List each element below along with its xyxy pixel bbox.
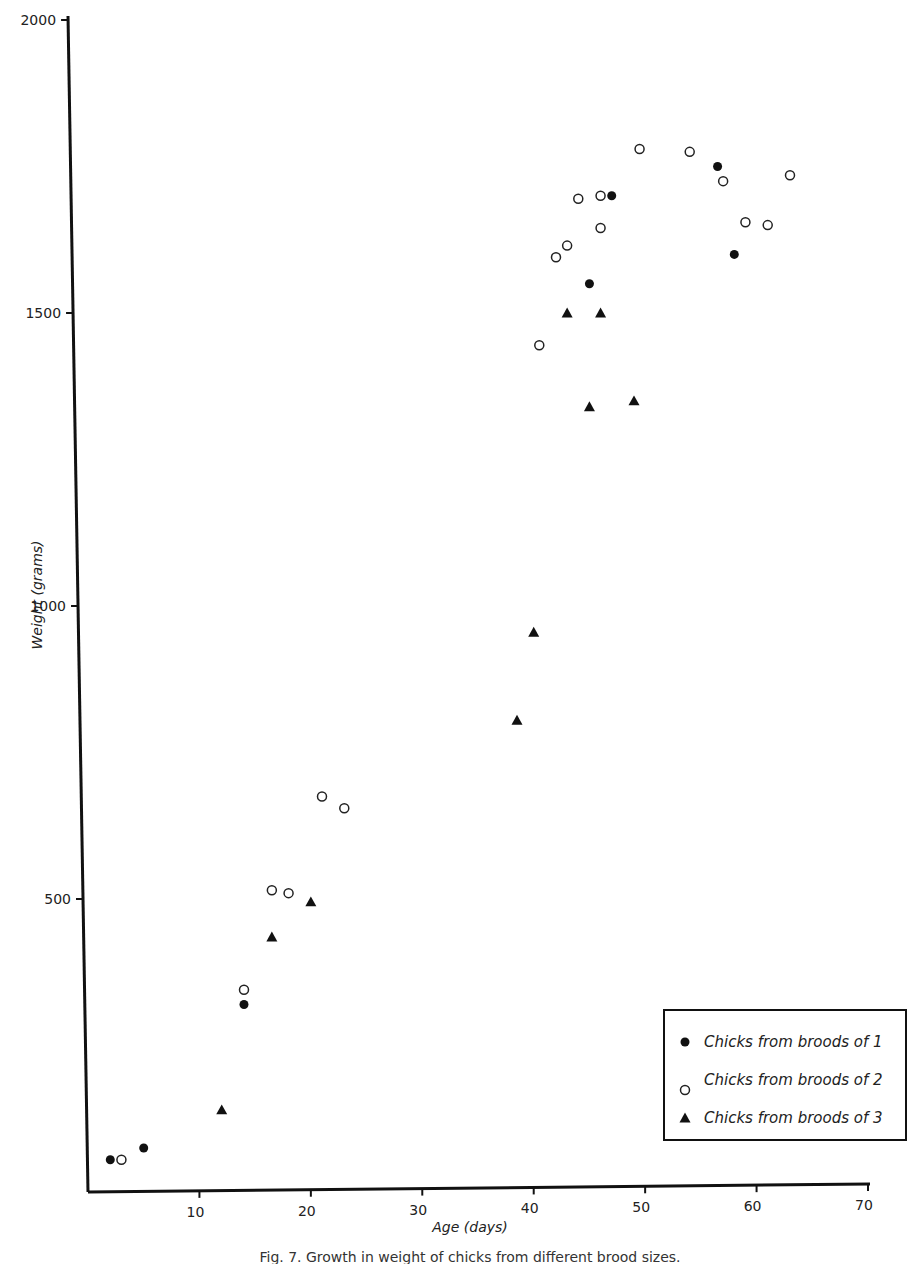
legend-label: Chicks from broods of 2: [704, 1071, 883, 1089]
data-point: [585, 279, 594, 288]
data-point: [763, 221, 772, 230]
legend-item: Chicks from broods of 1: [681, 1033, 883, 1051]
data-point: [584, 401, 595, 411]
x-tick-label: 30: [409, 1202, 427, 1218]
y-axis: [68, 16, 88, 1192]
data-point: [552, 253, 561, 262]
legend-label: Chicks from broods of 3: [704, 1109, 883, 1127]
data-point: [305, 896, 316, 906]
data-point: [730, 250, 739, 259]
x-axis-title: Age (days): [431, 1219, 508, 1235]
data-point: [719, 177, 728, 186]
data-point: [139, 1144, 148, 1153]
data-point: [240, 985, 249, 994]
legend: Chicks from broods of 1Chicks from brood…: [664, 1010, 906, 1140]
x-tick-label: 70: [855, 1197, 873, 1213]
x-tick-label: 40: [521, 1200, 539, 1216]
data-point: [596, 224, 605, 233]
legend-marker: [681, 1038, 690, 1047]
data-point: [512, 715, 523, 725]
legend-marker: [681, 1086, 690, 1095]
data-point: [528, 627, 539, 637]
legend-item: Chicks from broods of 3: [680, 1109, 883, 1127]
data-point: [318, 792, 327, 801]
data-point: [267, 886, 276, 895]
data-point: [340, 804, 349, 813]
legend-label: Chicks from broods of 1: [704, 1033, 883, 1051]
data-point: [574, 194, 583, 203]
x-tick-label: 60: [744, 1198, 762, 1214]
series-1: [106, 162, 739, 1164]
data-point: [117, 1155, 126, 1164]
x-tick-label: 20: [298, 1203, 316, 1219]
y-axis-title: Weight (grams): [29, 540, 45, 649]
data-point: [786, 171, 795, 180]
series-3: [216, 308, 639, 1115]
data-point: [284, 889, 293, 898]
data-point: [535, 341, 544, 350]
data-point: [713, 162, 722, 171]
x-axis: [88, 1184, 870, 1192]
data-point: [240, 1000, 249, 1009]
x-tick-label: 10: [187, 1204, 205, 1220]
data-point: [563, 241, 572, 250]
data-point: [106, 1155, 115, 1164]
data-point: [216, 1104, 227, 1114]
data-point: [741, 218, 750, 227]
data-point: [607, 191, 616, 200]
y-tick-label: 1500: [25, 305, 61, 321]
figure-caption: Fig. 7. Growth in weight of chicks from …: [259, 1249, 680, 1264]
scatter-chart: 10203040506070 500100015002000 Age (days…: [0, 0, 921, 1264]
y-tick-label: 500: [44, 891, 71, 907]
x-tick-label: 50: [632, 1199, 650, 1215]
data-point: [685, 147, 694, 156]
data-point: [635, 144, 644, 153]
y-ticks: 500100015002000: [20, 12, 83, 907]
data-point: [562, 308, 573, 318]
data-point: [266, 932, 277, 942]
y-tick-label: 2000: [20, 12, 56, 28]
data-point: [629, 395, 640, 405]
data-point: [596, 191, 605, 200]
data-point: [595, 308, 606, 318]
